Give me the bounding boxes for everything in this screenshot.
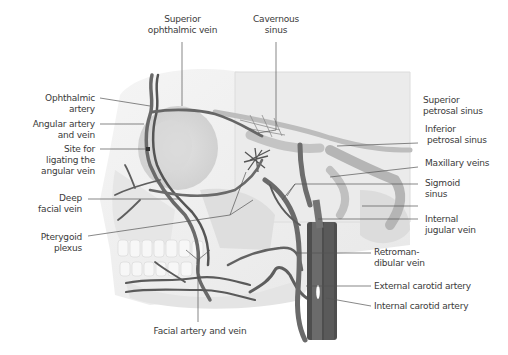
label-maxillary-veins: Maxillary veins [425,158,489,169]
label-site-for-ligating-angular-vein: Site for ligating the angular vein [15,144,95,177]
label-facial-artery-and-vein: Facial artery and vein [140,326,260,337]
label-superior-ophthalmic-vein: Superior ophthalmic vein [145,14,220,36]
skull [100,69,410,309]
label-retromandibular-vein: Retroman- dibular vein [374,247,425,269]
label-pterygoid-plexus: Pterygoid plexus [10,232,82,254]
anatomy-figure: Superior ophthalmic vein Cavernous sinus… [0,0,508,355]
label-internal-jugular-vein: Internal jugular vein [425,214,476,236]
label-inferior-petrosal-sinus: Inferior petrosal sinus [425,124,487,146]
label-internal-carotid-artery: Internal carotid artery [374,301,468,312]
label-sigmoid-sinus: Sigmoid sinus [425,178,460,200]
ligation-marker [146,147,150,151]
label-superior-petrosal-sinus: Superior petrosal sinus [423,95,483,117]
label-cavernous-sinus: Cavernous sinus [250,14,302,36]
label-deep-facial-vein: Deep facial vein [10,193,82,215]
label-external-carotid-artery: External carotid artery [374,281,471,292]
label-ophthalmic-artery: Ophthalmic artery [20,93,95,115]
label-angular-artery-and-vein: Angular artery and vein [15,119,95,141]
